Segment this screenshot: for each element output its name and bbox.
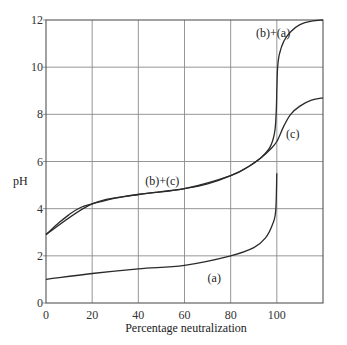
y-tick-label: 0 bbox=[37, 296, 43, 310]
y-tick-label: 2 bbox=[37, 249, 43, 263]
x-tick-label: 40 bbox=[132, 308, 144, 322]
y-tick-label: 10 bbox=[31, 60, 43, 74]
curve-label: (a) bbox=[208, 271, 221, 285]
x-tick-label: 20 bbox=[86, 308, 98, 322]
y-tick-label: 12 bbox=[31, 13, 43, 27]
y-axis-label: pH bbox=[13, 174, 28, 188]
y-tick-label: 6 bbox=[37, 155, 43, 169]
grid-lines bbox=[43, 20, 323, 303]
x-tick-label: 100 bbox=[268, 308, 286, 322]
curve-labels: (b)+(a)(c)(b)+(c)(a) bbox=[145, 26, 299, 285]
y-tick-label: 4 bbox=[37, 202, 43, 216]
curve-label: (b)+(c) bbox=[145, 174, 179, 188]
x-axis-ticks: 020406080100 bbox=[43, 308, 286, 322]
curve-a bbox=[46, 173, 277, 279]
x-tick-label: 0 bbox=[43, 308, 49, 322]
x-tick-label: 80 bbox=[225, 308, 237, 322]
y-tick-label: 8 bbox=[37, 107, 43, 121]
titration-chart: 020406080100 024681012 (b)+(a)(c)(b)+(c)… bbox=[0, 0, 347, 345]
curve-label: (c) bbox=[286, 127, 299, 141]
x-axis-label: Percentage neutralization bbox=[125, 321, 247, 335]
y-axis-ticks: 024681012 bbox=[31, 13, 43, 310]
x-tick-label: 60 bbox=[179, 308, 191, 322]
curve-label: (b)+(a) bbox=[256, 26, 290, 40]
